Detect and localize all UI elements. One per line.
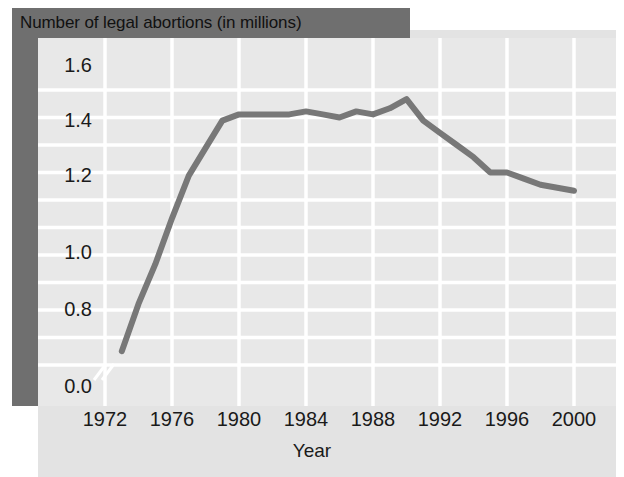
left-accent-band: [12, 30, 38, 406]
y-tick-label-0.0: 0.0: [38, 375, 92, 398]
x-tick-label-1992: 1992: [418, 408, 463, 431]
y-tick-label-1.2: 1.2: [38, 164, 92, 187]
chart-title: Number of legal abortions (in millions): [12, 13, 301, 33]
x-tick-label-1996: 1996: [485, 408, 530, 431]
x-tick-label-1980: 1980: [217, 408, 262, 431]
horizontal-gridlines-minor: [38, 118, 616, 338]
chart-figure: Number of legal abortions (in millions): [0, 0, 624, 477]
plot-svg: [38, 38, 616, 406]
y-tick-label-0.8: 0.8: [38, 298, 92, 321]
x-tick-label-1972: 1972: [83, 408, 128, 431]
y-tick-label-1.6: 1.6: [38, 54, 92, 77]
x-tick-label-1976: 1976: [150, 408, 195, 431]
x-tick-label-2000: 2000: [552, 408, 597, 431]
x-tick-label-1984: 1984: [284, 408, 329, 431]
x-axis-tick-labels: 1972 1976 1980 1984 1988 1992 1996 2000: [38, 408, 616, 440]
chart-title-bar: Number of legal abortions (in millions): [12, 8, 410, 38]
plot-area: [38, 38, 616, 406]
x-tick-label-1988: 1988: [351, 408, 396, 431]
y-axis-break-icon: [90, 360, 118, 384]
vertical-gridlines: [105, 38, 574, 406]
x-axis-title: Year: [0, 440, 624, 462]
y-tick-label-1.4: 1.4: [38, 109, 92, 132]
y-tick-label-1.0: 1.0: [38, 241, 92, 264]
